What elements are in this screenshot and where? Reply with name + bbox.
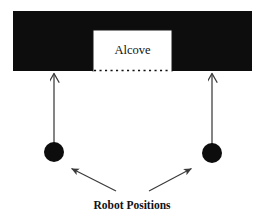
robot-right-marker [202,143,222,163]
robot-left-marker [44,142,64,162]
diagram-canvas: Alcove Robot Positions [0,0,261,219]
robot-positions-caption: Robot Positions [94,199,172,211]
diagram-svg: Alcove Robot Positions [0,0,261,219]
pointer-arrow-left [72,169,117,192]
alcove-label: Alcove [114,43,151,57]
pointer-arrow-right [149,169,192,192]
